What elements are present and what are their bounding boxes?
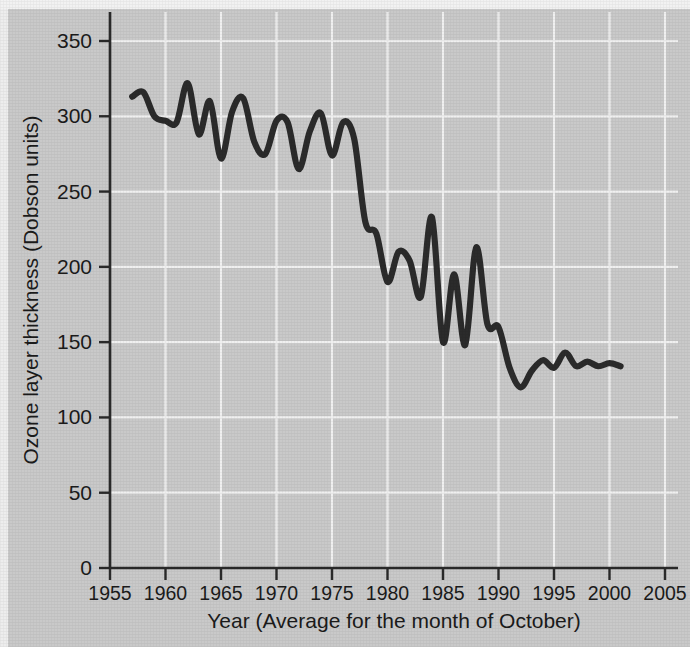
- x-tick-label: 1970: [255, 582, 299, 604]
- x-tick-label: 1985: [421, 582, 465, 604]
- x-tick-label: 1975: [310, 582, 354, 604]
- y-tick-label: 250: [57, 180, 92, 203]
- chart-canvas: 050100150200250300350 195519601965197019…: [0, 0, 690, 647]
- x-tick-label: 1960: [144, 582, 188, 604]
- x-tick-label: 1995: [532, 582, 576, 604]
- y-tick-label: 150: [57, 330, 92, 353]
- x-axis-ticks: [110, 568, 665, 580]
- y-tick-label: 50: [69, 481, 92, 504]
- ozone-chart-figure: 050100150200250300350 195519601965197019…: [0, 0, 690, 647]
- x-axis-tick-labels: 1955196019651970197519801985199019952000…: [88, 582, 687, 604]
- x-tick-label: 1980: [366, 582, 410, 604]
- y-tick-label: 200: [57, 255, 92, 278]
- x-tick-label: 2000: [588, 582, 632, 604]
- y-axis-ticks: [99, 41, 110, 568]
- y-tick-label: 0: [80, 556, 92, 579]
- y-tick-label: 100: [57, 405, 92, 428]
- y-tick-label: 300: [57, 104, 92, 127]
- y-axis-tick-labels: 050100150200250300350: [57, 29, 92, 579]
- x-axis-title: Year (Average for the month of October): [207, 609, 581, 632]
- x-tick-label: 1990: [477, 582, 521, 604]
- x-tick-label: 2005: [643, 582, 687, 604]
- x-tick-label: 1955: [88, 582, 132, 604]
- y-axis-title: Ozone layer thickness (Dobson units): [19, 116, 42, 465]
- y-tick-label: 350: [57, 29, 92, 52]
- x-tick-label: 1965: [199, 582, 243, 604]
